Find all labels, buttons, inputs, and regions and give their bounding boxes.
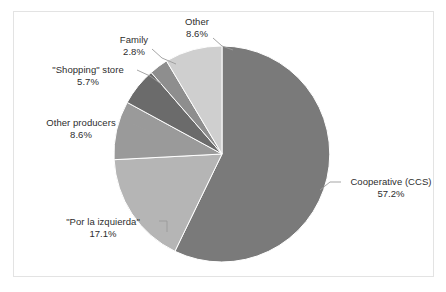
slice-label-shopping-store-value: 5.7% <box>36 76 140 88</box>
slice-label-por-la-izquierda: "Por la izquierda" 17.1% <box>43 216 163 239</box>
pie-graphic <box>0 0 446 292</box>
slice-label-por-la-izquierda-value: 17.1% <box>43 228 163 240</box>
slice-label-shopping-store-name: "Shopping" store <box>36 64 140 76</box>
pie-chart-figure: Other 8.6% Family 2.8% "Shopping" store … <box>0 0 446 292</box>
slice-label-family: Family 2.8% <box>108 34 160 57</box>
slice-label-other: Other 8.6% <box>175 16 219 39</box>
slice-label-shopping-store: "Shopping" store 5.7% <box>36 64 140 87</box>
slice-label-cooperative-ccs: Cooperative (CCS) 57.2% <box>343 176 439 199</box>
slice-label-family-name: Family <box>108 34 160 46</box>
slice-label-other-producers-name: Other producers <box>26 117 136 129</box>
slice-label-cooperative-ccs-name: Cooperative (CCS) <box>343 176 439 188</box>
slice-label-por-la-izquierda-name: "Por la izquierda" <box>43 216 163 228</box>
slice-label-other-name: Other <box>175 16 219 28</box>
slice-label-other-value: 8.6% <box>175 28 219 40</box>
slice-label-other-producers-value: 8.6% <box>26 129 136 141</box>
slice-label-family-value: 2.8% <box>108 46 160 58</box>
slice-label-cooperative-ccs-value: 57.2% <box>343 188 439 200</box>
slice-label-other-producers: Other producers 8.6% <box>26 117 136 140</box>
